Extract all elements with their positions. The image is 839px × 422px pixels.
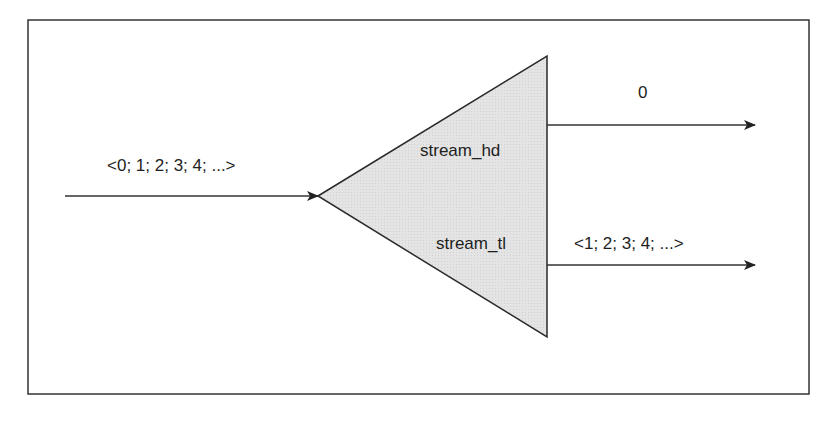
stream-tl-port-label: stream_tl [436, 234, 506, 254]
tail-output-label: <1; 2; 3; 4; ...> [574, 234, 684, 254]
head-output-label: 0 [638, 83, 647, 103]
diagram-canvas [0, 0, 839, 422]
input-stream-label: <0; 1; 2; 3; 4; ...> [107, 156, 236, 176]
stream-split-block [318, 56, 547, 337]
stream-hd-port-label: stream_hd [420, 141, 500, 161]
